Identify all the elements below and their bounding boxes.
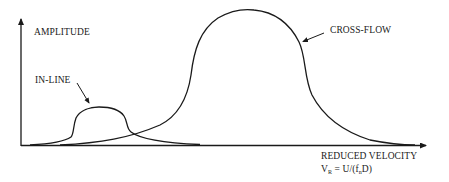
inline-label: IN-LINE <box>35 76 71 86</box>
crossflow-leader-arrow <box>303 33 324 42</box>
x-axis-label: REDUCED VELOCITY <box>321 152 417 162</box>
vortex-induced-vibration-diagram: AMPLITUDE IN-LINE CROSS-FLOW REDUCED VEL… <box>0 0 449 182</box>
formula-v: V <box>321 164 328 174</box>
formula-tail: D) <box>362 164 372 174</box>
reduced-velocity-formula: VR = U/(fnD) <box>321 165 372 175</box>
y-axis-label: AMPLITUDE <box>34 28 90 38</box>
inline-leader-arrow <box>77 83 89 103</box>
crossflow-label: CROSS-FLOW <box>330 26 391 36</box>
formula-equals: = U/( <box>332 164 355 174</box>
